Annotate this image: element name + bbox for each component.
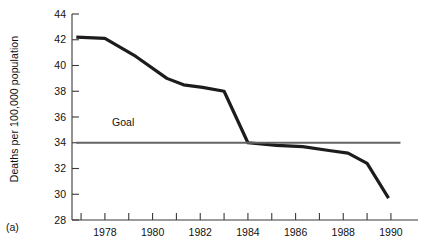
y-tick-label: 38 xyxy=(54,85,66,97)
y-tick-label: 34 xyxy=(54,136,66,148)
y-tick-label: 44 xyxy=(54,8,66,20)
x-tick-label: 1986 xyxy=(284,226,308,238)
x-tick-label: 1980 xyxy=(141,226,165,238)
y-tick-label: 30 xyxy=(54,188,66,200)
chart-annotations: Goal xyxy=(112,116,134,128)
x-tick-label: 1982 xyxy=(189,226,213,238)
line-chart: 283032343638404244 197819801982198419861… xyxy=(0,0,448,247)
y-axis: 283032343638404244 xyxy=(54,8,79,226)
y-tick-label: 40 xyxy=(54,59,66,71)
x-tick-label: 1990 xyxy=(379,226,403,238)
x-tick-label: 1988 xyxy=(332,226,356,238)
y-tick-label: 32 xyxy=(54,162,66,174)
y-tick-label: 28 xyxy=(54,214,66,226)
y-tick-label: 36 xyxy=(54,111,66,123)
y-tick-label: 42 xyxy=(54,33,66,45)
figure-panel-a: Deaths per 100,000 population (a) 283032… xyxy=(0,0,448,247)
x-tick-label: 1978 xyxy=(93,226,117,238)
x-axis: 1978198019821984198619881990 xyxy=(72,213,418,238)
goal-annotation-label: Goal xyxy=(112,116,134,128)
x-tick-label: 1984 xyxy=(236,226,260,238)
